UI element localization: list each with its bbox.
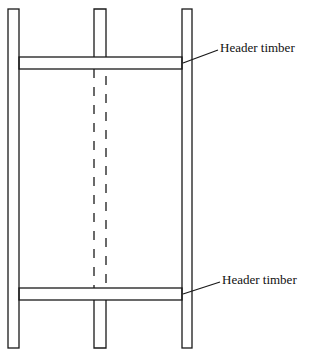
middle-post-bottom xyxy=(94,300,106,348)
top-header-timber xyxy=(19,57,182,69)
top-leader-line xyxy=(183,50,218,63)
bottom-header-timber xyxy=(19,288,182,300)
left-post xyxy=(8,9,19,348)
bottom-leader-line xyxy=(183,282,220,294)
timber-frame-diagram: Header timber Header timber xyxy=(0,0,314,358)
top-header-label: Header timber xyxy=(220,40,295,56)
bottom-header-label: Header timber xyxy=(222,272,297,288)
middle-post-top xyxy=(94,9,106,57)
